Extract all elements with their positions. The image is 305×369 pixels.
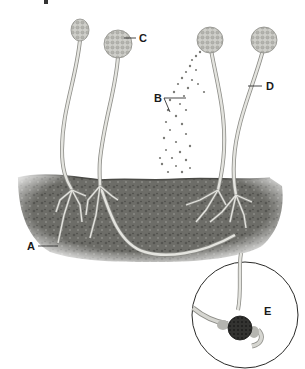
sporangium-small <box>71 19 89 41</box>
sporangium-c <box>104 30 132 58</box>
label-c: C <box>139 33 147 44</box>
spore-cloud <box>159 51 205 173</box>
label-b: B <box>154 93 162 104</box>
rhizopus-diagram: C B D A E <box>0 0 305 369</box>
sporangium-releasing <box>197 27 223 53</box>
label-d: D <box>266 81 274 92</box>
zygosporangium-inset <box>192 253 298 368</box>
sporangium-right <box>251 27 277 53</box>
label-a: A <box>27 241 35 252</box>
diagram-canvas <box>0 0 305 369</box>
label-e: E <box>264 306 271 317</box>
zygospore <box>228 316 252 340</box>
cropped-heading-fragment <box>44 0 48 4</box>
